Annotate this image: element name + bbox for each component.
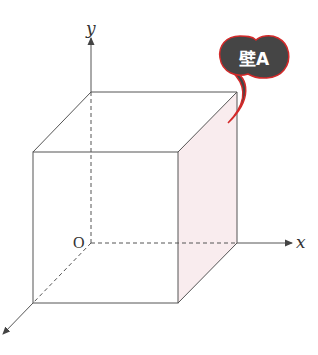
x-axis-label: x	[296, 232, 306, 252]
origin-label: O	[73, 234, 85, 251]
z-axis	[3, 303, 33, 334]
callout-text: 壁A	[239, 49, 270, 69]
cube-diagram: y x O 壁A	[0, 0, 318, 355]
y-axis-label: y	[85, 18, 96, 38]
wall-a-face	[178, 92, 237, 303]
